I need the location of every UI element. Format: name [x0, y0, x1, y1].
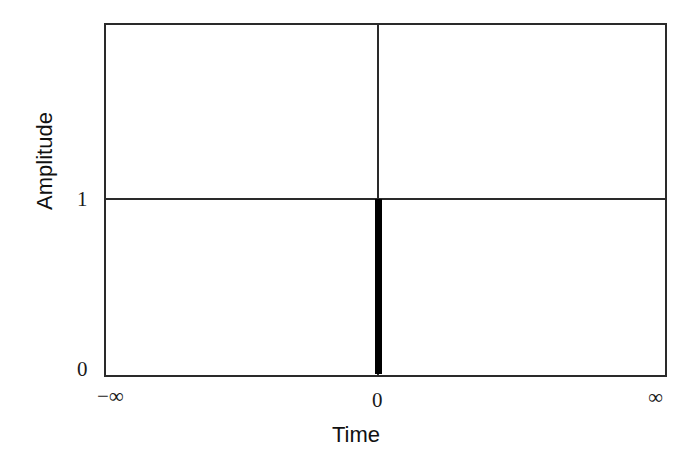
impulse-bar	[375, 199, 382, 374]
x-tick-pos-infinity: ∞	[648, 387, 663, 408]
y-tick-0: 0	[77, 359, 88, 380]
x-axis-label: Time	[332, 422, 380, 448]
y-axis-label: Amplitude	[32, 112, 58, 210]
plot-area-frame	[104, 23, 667, 377]
x-tick-neg-infinity: −∞	[97, 386, 124, 407]
x-tick-zero: 0	[372, 390, 383, 411]
amplitude-one-gridline	[104, 198, 665, 200]
y-tick-1: 1	[77, 189, 88, 210]
